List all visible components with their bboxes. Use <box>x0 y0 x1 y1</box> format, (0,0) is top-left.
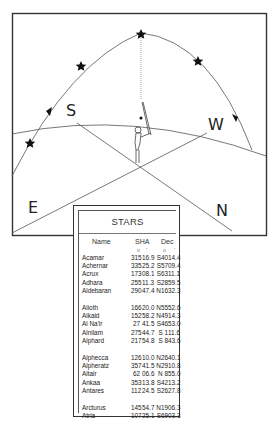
sha-degrees: 107 <box>131 412 140 419</box>
dec-degrees: N26 <box>156 354 168 361</box>
dec-minutes: 59.5 <box>168 279 180 286</box>
table-row: Alkaid15258.2N4914.3 <box>79 312 176 320</box>
star-name: Adhara <box>82 279 103 286</box>
sha-minutes: 16.9 <box>142 254 154 261</box>
dec-degrees: S46 <box>156 320 168 327</box>
table-row: Arcturus14554.7N1906.3 <box>79 404 176 412</box>
star-name: Alphard <box>82 337 104 344</box>
sha-minutes: 13.8 <box>142 379 154 386</box>
star-name: Alphecca <box>82 354 108 361</box>
sha-minutes: 25.2 <box>142 262 154 269</box>
sha-minutes: 24.5 <box>142 387 154 394</box>
label-north: N <box>216 203 228 219</box>
observer-figure-icon <box>135 102 151 163</box>
sha-degrees: 335 <box>131 262 140 269</box>
star-name: Acamar <box>82 254 104 261</box>
dec-degrees: S40 <box>156 254 168 261</box>
table-row: Alpheratz35741.5N2910.8 <box>79 362 176 370</box>
unit-min: ' <box>146 247 147 253</box>
star-name: Alpheratz <box>82 362 109 369</box>
star-name: Ankaa <box>82 379 100 386</box>
sha-minutes: 41.5 <box>142 362 154 369</box>
star-name: Alioth <box>82 304 98 311</box>
sha-degrees: 152 <box>131 312 140 319</box>
sha-degrees: 290 <box>131 287 140 294</box>
table-row: Antares11224.5S2627.8 <box>79 387 176 395</box>
sha-degrees: 166 <box>131 304 140 311</box>
star-name: Acrux <box>82 270 98 277</box>
sha-minutes: 08.1 <box>142 270 154 277</box>
sha-degrees: 145 <box>131 404 140 411</box>
sha-degrees: 126 <box>131 354 140 361</box>
sha-degrees: 353 <box>131 379 140 386</box>
dec-minutes: 14.4 <box>168 254 180 261</box>
dec-degrees: N19 <box>156 404 168 411</box>
star-name: Achernar <box>82 262 108 269</box>
star-name: Atria <box>82 412 95 419</box>
table-title: STARS <box>79 216 176 227</box>
dec-minutes: 43.6 <box>168 337 180 344</box>
table-row: Atria10725.1S6903.3 <box>79 412 176 420</box>
table-row: Achernar33525.2S5709.4 <box>79 262 176 270</box>
table-row: Alnilam27544.7S 111.6 <box>79 329 176 337</box>
dec-degrees: S 8 <box>156 337 168 344</box>
star-path-arc <box>12 33 252 176</box>
sha-degrees: 173 <box>131 270 140 277</box>
table-row: Alphecca12610.0N2640.1 <box>79 354 176 362</box>
dec-degrees: S57 <box>156 262 168 269</box>
table-row: Ankaa35313.8S4213.2 <box>79 379 176 387</box>
table-row: Aldebaran29047.4N1632.3 <box>79 287 176 295</box>
star-name: Alnilam <box>82 329 103 336</box>
star-icon <box>25 29 204 148</box>
dec-minutes: 03.3 <box>168 412 180 419</box>
star-name: Aldebaran <box>82 287 111 294</box>
table-row: Al Na'ir2741.5S4653.0 <box>79 320 176 328</box>
dec-minutes: 06.3 <box>168 404 180 411</box>
dec-degrees: N29 <box>156 362 168 369</box>
dec-degrees: N49 <box>156 312 168 319</box>
dec-degrees: S69 <box>156 412 168 419</box>
dec-degrees: N 8 <box>156 370 168 377</box>
stars-table-inner: STARS Name SHA Dec o ' o ' Acamar31516.9… <box>78 210 176 413</box>
sha-minutes: 25.1 <box>142 412 154 419</box>
dec-minutes: 55.0 <box>168 370 180 377</box>
table-row: Adhara25511.3S2859.5 <box>79 279 176 287</box>
sha-minutes: 54.7 <box>142 404 154 411</box>
unit-deg: o <box>163 247 166 253</box>
sha-degrees: 217 <box>131 337 140 344</box>
table-row: Acrux17308.1S6311.1 <box>79 270 176 278</box>
star-name: Antares <box>82 387 104 394</box>
dec-minutes: 14.3 <box>168 312 180 319</box>
dec-minutes: 27.8 <box>168 387 180 394</box>
table-row: Alioth16620.0N5552.6 <box>79 304 176 312</box>
sha-degrees: 112 <box>131 387 140 394</box>
dec-degrees: S63 <box>156 270 168 277</box>
dec-minutes: 11.6 <box>168 329 180 336</box>
star-name: Arcturus <box>82 404 106 411</box>
table-row: Acamar31516.9S4014.4 <box>79 254 176 262</box>
sha-minutes: 44.7 <box>142 329 154 336</box>
dec-minutes: 10.8 <box>168 362 180 369</box>
sha-degrees: 27 <box>131 320 140 327</box>
stars-table: STARS Name SHA Dec o ' o ' Acamar31516.9… <box>73 205 180 417</box>
dec-minutes: 09.4 <box>168 262 180 269</box>
dec-minutes: 32.3 <box>168 287 180 294</box>
sha-degrees: 255 <box>131 279 140 286</box>
dec-minutes: 11.1 <box>168 270 180 277</box>
dec-degrees: S 1 <box>156 329 168 336</box>
sha-minutes: 20.0 <box>142 304 154 311</box>
star-name: Alkaid <box>82 312 99 319</box>
sha-degrees: 275 <box>131 329 140 336</box>
star-name: Al Na'ir <box>82 320 102 327</box>
sha-degrees: 62 <box>131 370 140 377</box>
header-name: Name <box>92 238 111 245</box>
star-name: Altair <box>82 370 97 377</box>
label-west: W <box>208 117 224 133</box>
sha-minutes: 10.0 <box>142 354 154 361</box>
header-sha: SHA <box>135 238 149 245</box>
dec-minutes: 53.0 <box>168 320 180 327</box>
label-south: S <box>66 103 76 119</box>
dec-minutes: 40.1 <box>168 354 180 361</box>
unit-min: ' <box>174 247 175 253</box>
sha-minutes: 06.6 <box>142 370 154 377</box>
